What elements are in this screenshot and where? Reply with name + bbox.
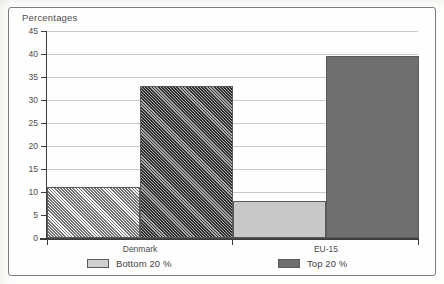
y-axis-tick-label: 30 (29, 95, 38, 105)
legend-label: Bottom 20 % (116, 258, 172, 269)
bar (140, 86, 233, 238)
y-axis-tick-label: 10 (29, 187, 38, 197)
y-axis-tick-label: 5 (33, 210, 38, 220)
bar (326, 56, 419, 238)
legend-item[interactable]: Bottom 20 % (87, 258, 172, 269)
gridline (47, 238, 418, 239)
plot-area (47, 31, 418, 238)
x-axis-category-label: EU-15 (314, 244, 338, 254)
gridline (47, 54, 418, 55)
y-axis-tick-label: 0 (33, 233, 38, 243)
y-axis-tick-labels: 051015202530354045 (14, 31, 38, 238)
chart-title: Percentages (22, 12, 78, 23)
y-axis-tick-label: 15 (29, 164, 38, 174)
x-axis-end-tick (418, 240, 419, 245)
legend-swatch-icon (87, 259, 109, 268)
y-axis-tick-label: 25 (29, 118, 38, 128)
y-axis-tick-label: 40 (29, 49, 38, 59)
y-axis-tick-label: 20 (29, 141, 38, 151)
legend-label: Top 20 % (307, 258, 347, 269)
x-axis-start-tick (47, 240, 48, 245)
legend-swatch-icon (278, 259, 300, 268)
bar (47, 187, 140, 238)
chart-figure: Percentages 051015202530354045 DenmarkEU… (0, 0, 444, 284)
bar (233, 201, 326, 238)
y-axis-tick-label: 45 (29, 26, 38, 36)
legend-item[interactable]: Top 20 % (278, 258, 347, 269)
x-axis-category-label: Denmark (123, 244, 157, 254)
y-axis-tick-label: 35 (29, 72, 38, 82)
chart-legend: Bottom 20 %Top 20 % (9, 258, 435, 276)
x-axis-group-tick (232, 240, 233, 245)
gridline (47, 31, 418, 32)
